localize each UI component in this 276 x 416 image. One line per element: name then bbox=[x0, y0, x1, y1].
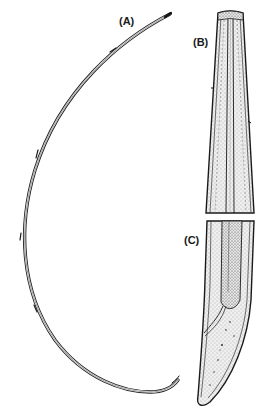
figure-illustration bbox=[0, 0, 276, 416]
panel-label-b: (B) bbox=[193, 37, 208, 48]
panel-a-whole-worm bbox=[20, 13, 179, 392]
panel-b-anterior-end bbox=[206, 11, 254, 213]
panel-c-posterior-end bbox=[198, 221, 254, 405]
panel-label-a: (A) bbox=[119, 16, 134, 27]
nematode-figure: (A) (B) (C) bbox=[0, 0, 276, 416]
panel-label-c: (C) bbox=[184, 235, 199, 246]
